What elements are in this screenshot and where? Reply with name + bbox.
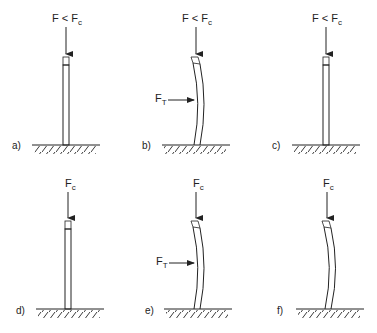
column-left-edge bbox=[193, 227, 198, 309]
axial-force-label: Fc bbox=[323, 177, 334, 192]
column-cap bbox=[323, 57, 329, 65]
lateral-force-label: FT bbox=[156, 255, 168, 270]
column bbox=[323, 65, 329, 145]
ground-hatch bbox=[166, 310, 228, 318]
axial-force-label: Fc bbox=[193, 177, 204, 192]
column-cap bbox=[63, 57, 69, 65]
ground-hatch bbox=[294, 146, 356, 154]
panel-e: Fc FT e) bbox=[145, 177, 232, 318]
column-left-edge bbox=[324, 227, 329, 309]
column-right-edge bbox=[331, 228, 336, 309]
column-right-edge bbox=[200, 228, 204, 309]
panel-label: f) bbox=[277, 305, 283, 316]
panel-b: F < Fc FT b) bbox=[142, 12, 230, 154]
panel-a: F < Fc a) bbox=[12, 12, 100, 154]
column-buckling-diagram: F < Fc a) F < Fc FT b) F < Fc c) Fc bbox=[0, 0, 377, 333]
axial-force-label: Fc bbox=[65, 177, 76, 192]
lateral-force-label: FT bbox=[155, 92, 167, 107]
column-right-edge bbox=[200, 64, 204, 145]
axial-force-label: F < Fc bbox=[312, 12, 342, 27]
column-left-edge bbox=[193, 63, 198, 145]
column bbox=[65, 229, 71, 309]
ground-hatch bbox=[34, 146, 96, 154]
ground-hatch bbox=[164, 146, 226, 154]
panel-f: Fc f) bbox=[277, 177, 364, 318]
panel-label: d) bbox=[16, 305, 25, 316]
panel-c: F < Fc c) bbox=[272, 12, 360, 154]
panel-d: Fc d) bbox=[16, 177, 104, 318]
axial-force-label: F < Fc bbox=[52, 12, 82, 27]
ground-hatch bbox=[298, 310, 360, 318]
column bbox=[63, 65, 69, 145]
column-cap bbox=[322, 221, 331, 228]
column-cap bbox=[65, 221, 71, 229]
column-cap bbox=[191, 57, 200, 64]
column-cap bbox=[191, 221, 200, 228]
panel-label: a) bbox=[12, 140, 21, 151]
panel-label: b) bbox=[142, 140, 151, 151]
axial-force-label: F < Fc bbox=[182, 12, 212, 27]
ground-hatch bbox=[38, 310, 100, 318]
panel-label: c) bbox=[272, 140, 280, 151]
panel-label: e) bbox=[145, 305, 154, 316]
